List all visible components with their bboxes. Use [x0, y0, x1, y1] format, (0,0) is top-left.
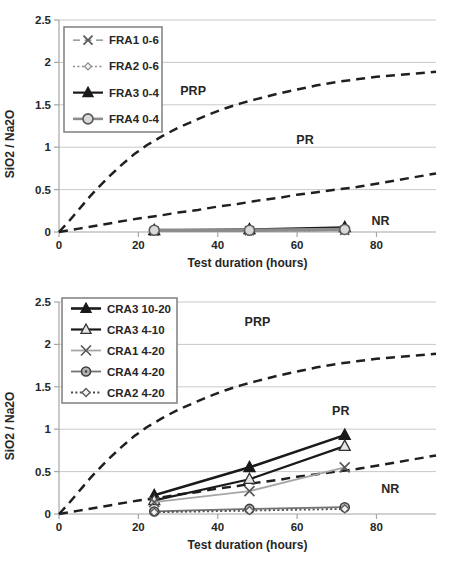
- region-label-nr: NR: [371, 214, 389, 228]
- x-axis-title: Test duration (hours): [188, 256, 308, 270]
- legend-label: CRA4 4-20: [107, 366, 165, 378]
- circle-marker-icon: [244, 225, 254, 235]
- x-axis-title: Test duration (hours): [188, 538, 308, 552]
- x-tick-label: 0: [56, 239, 62, 251]
- legend-item: CRA3 4-10: [71, 324, 165, 336]
- y-tick-label: 1.5: [35, 99, 52, 111]
- legend-label: FRA4 0-4: [109, 113, 159, 125]
- x-tick-label: 60: [291, 239, 304, 251]
- chart-fra-svg: 00.511.522.5020406080PRPPRNRFRA1 0-6FRA2…: [0, 0, 455, 282]
- legend-item: FRA4 0-4: [73, 113, 159, 125]
- y-tick-label: 0.5: [35, 184, 52, 196]
- y-tick-label: 1.5: [35, 381, 52, 393]
- y-tick-label: 2.5: [35, 296, 52, 308]
- region-label-pr: PR: [332, 404, 349, 418]
- y-tick-label: 0: [45, 508, 51, 520]
- legend-label: CRA3 4-10: [107, 324, 165, 336]
- circle-marker-dot-icon: [85, 370, 88, 373]
- series-cra3-10-20: [149, 429, 351, 499]
- series-cra3-4-10: [149, 440, 351, 504]
- chart-cra-aggregates: 00.511.522.5020406080PRPPRNRCRA3 10-20CR…: [0, 282, 455, 564]
- circle-marker-icon: [340, 224, 350, 234]
- y-tick-label: 0.5: [35, 466, 52, 478]
- y-tick-label: 1: [45, 141, 52, 153]
- triangle-marker-icon: [339, 429, 350, 439]
- x-tick-label: 20: [132, 521, 145, 533]
- legend-label: CRA1 4-20: [107, 345, 165, 357]
- region-label-prp: PRP: [245, 315, 271, 329]
- y-axis-title: SiO2 / Na2O: [3, 110, 17, 179]
- x-tick-label: 0: [56, 521, 62, 533]
- circle-marker-icon: [83, 114, 93, 124]
- alkali-reactivity-figure: 00.511.522.5020406080PRPPRNRFRA1 0-6FRA2…: [0, 0, 455, 564]
- x-tick-label: 20: [132, 239, 145, 251]
- triangle-marker-icon: [339, 440, 350, 450]
- legend-label: CRA3 10-20: [107, 303, 171, 315]
- y-tick-label: 2: [45, 56, 51, 68]
- circle-marker-icon: [149, 225, 159, 235]
- legend-label: FRA2 0-6: [109, 60, 159, 72]
- x-tick-label: 80: [370, 239, 383, 251]
- legend-label: FRA1 0-6: [109, 34, 159, 46]
- y-tick-label: 2: [45, 338, 51, 350]
- region-label-nr: NR: [381, 482, 399, 496]
- x-tick-label: 80: [370, 521, 383, 533]
- legend-label: FRA3 0-4: [109, 87, 159, 99]
- legend: CRA3 10-20CRA3 4-10CRA1 4-20CRA4 4-20CRA…: [62, 298, 177, 403]
- y-tick-label: 1: [45, 423, 52, 435]
- legend-item: CRA3 10-20: [71, 303, 171, 315]
- x-tick-label: 40: [211, 521, 224, 533]
- x-tick-label: 60: [291, 521, 304, 533]
- x-tick-label: 40: [211, 239, 224, 251]
- region-label-pr: PR: [296, 133, 313, 147]
- series-fra4-0-4: [149, 224, 349, 235]
- y-tick-label: 0: [45, 226, 51, 238]
- y-tick-label: 2.5: [35, 14, 52, 26]
- legend: FRA1 0-6FRA2 0-6FRA3 0-4FRA4 0-4: [64, 27, 162, 132]
- legend-label: CRA2 4-20: [107, 387, 165, 399]
- chart-fra-aggregates: 00.511.522.5020406080PRPPRNRFRA1 0-6FRA2…: [0, 0, 455, 282]
- y-axis-title: SiO2 / Na2O: [3, 392, 17, 461]
- legend-item: CRA4 4-20: [71, 366, 165, 378]
- region-label-prp: PRP: [180, 84, 206, 98]
- chart-cra-svg: 00.511.522.5020406080PRPPRNRCRA3 10-20CR…: [0, 282, 455, 564]
